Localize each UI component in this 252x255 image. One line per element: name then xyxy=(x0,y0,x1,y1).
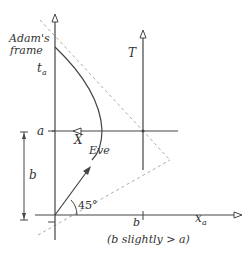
T-label: T xyxy=(128,46,137,60)
angle-label: 45° xyxy=(78,199,98,212)
b-arrow-down-icon xyxy=(22,213,26,219)
t-axis-sub: a xyxy=(42,68,47,77)
x-axis-sub: a xyxy=(202,218,207,227)
light-line-descending xyxy=(40,20,170,160)
b-left-label: b xyxy=(29,168,37,182)
a-label: a xyxy=(37,124,44,138)
eve-arrow-icon xyxy=(83,166,91,175)
caption: (b slightly > a) xyxy=(107,233,190,246)
X-label: X xyxy=(73,133,83,147)
b-arrow-up-icon xyxy=(22,133,26,139)
light-line-ascending xyxy=(38,160,170,235)
frame-label-2: frame xyxy=(9,44,43,57)
eve-label: Eve xyxy=(88,144,110,157)
t-axis-arrow-icon xyxy=(52,14,58,22)
x-axis-label: x xyxy=(195,211,202,225)
b-tick-label: b xyxy=(133,216,140,229)
angle-arc xyxy=(71,200,77,215)
spacetime-diagram: Adam's frame t a T a X Eve b 45° b x a (… xyxy=(0,0,252,255)
event-point xyxy=(142,130,145,133)
x-axis-arrow-icon xyxy=(234,212,242,218)
T-arrow-icon xyxy=(140,30,146,38)
